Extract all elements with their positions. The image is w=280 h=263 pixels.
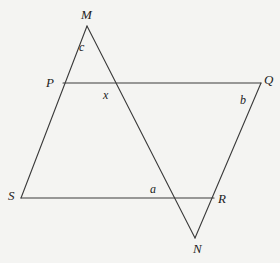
vertex-label-m: M (80, 7, 93, 22)
vertex-label-q: Q (264, 72, 274, 87)
vertex-label-n: N (192, 241, 203, 256)
angle-label-x: x (102, 88, 109, 102)
vertex-label-p: P (45, 75, 54, 90)
line-mn (87, 26, 195, 238)
angle-label-a: a (150, 182, 156, 196)
line-qn (195, 83, 261, 238)
vertex-label-s: S (8, 188, 15, 203)
line-ms (21, 26, 87, 198)
angle-label-b: b (240, 93, 246, 107)
geometry-diagram: M P Q S R N c x b a (0, 0, 280, 263)
angle-label-c: c (79, 40, 85, 54)
vertex-label-r: R (217, 191, 226, 206)
